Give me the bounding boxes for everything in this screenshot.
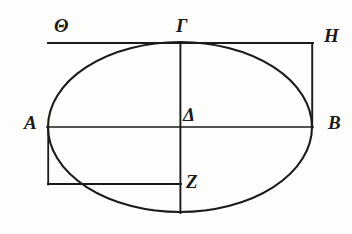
point-label-beta: B bbox=[328, 113, 341, 132]
point-label-delta: Δ bbox=[183, 105, 195, 124]
point-label-zeta: Z bbox=[186, 172, 198, 191]
point-label-alpha: A bbox=[24, 113, 37, 132]
geometric-figure: Θ Γ Η A Δ B Z bbox=[0, 0, 352, 234]
point-label-eta: Η bbox=[324, 26, 339, 45]
point-label-gamma: Γ bbox=[176, 16, 187, 35]
point-label-theta: Θ bbox=[54, 16, 69, 35]
